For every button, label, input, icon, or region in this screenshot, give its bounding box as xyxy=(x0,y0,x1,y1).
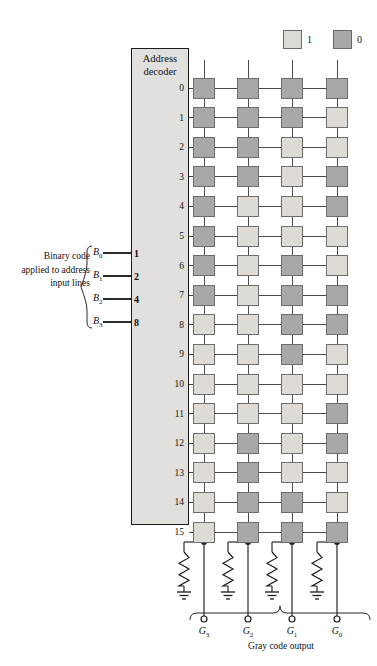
memory-cell-r6-G3 xyxy=(193,255,215,276)
output-label-G1: G1 xyxy=(277,625,307,639)
row-number-10: 10 xyxy=(162,379,184,389)
row-number-13: 13 xyxy=(162,468,184,478)
memory-cell-r11-G1 xyxy=(281,403,303,424)
out-sub-G0: 0 xyxy=(339,631,343,639)
memory-cell-r8-G3 xyxy=(193,314,215,335)
memory-cell-r9-G2 xyxy=(237,344,259,365)
memory-cell-r15-G3 xyxy=(193,522,215,543)
address-input-label-B0: B0 xyxy=(93,246,103,260)
addr-sub-B1: 1 xyxy=(99,275,103,283)
memory-cell-r8-G2 xyxy=(237,314,259,335)
memory-cell-r2-G3 xyxy=(193,137,215,158)
memory-cell-r14-G0 xyxy=(326,492,348,513)
row-number-0: 0 xyxy=(162,83,184,93)
memory-cell-r11-G2 xyxy=(237,403,259,424)
memory-cell-r4-G1 xyxy=(281,196,303,217)
gray-output-caption: Gray code output xyxy=(185,641,377,651)
pulldown-resistor-G2 xyxy=(223,552,233,586)
memory-cell-r4-G2 xyxy=(237,196,259,217)
memory-cell-r9-G0 xyxy=(326,344,348,365)
memory-cell-r8-G1 xyxy=(281,314,303,335)
pulldown-resistor-G0 xyxy=(312,552,322,586)
memory-cell-r6-G2 xyxy=(237,255,259,276)
address-input-label-B1: B1 xyxy=(93,269,103,283)
memory-cell-r14-G1 xyxy=(281,492,303,513)
address-weight-B0: 1 xyxy=(134,248,139,259)
row-number-6: 6 xyxy=(162,261,184,271)
memory-cell-r1-G1 xyxy=(281,107,303,128)
addr-sub-B0: 0 xyxy=(99,252,103,260)
address-input-label-B3: B3 xyxy=(93,315,103,329)
memory-cell-r9-G3 xyxy=(193,344,215,365)
ground-symbol-G2 xyxy=(221,592,235,599)
memory-cell-r5-G1 xyxy=(281,226,303,247)
row-number-4: 4 xyxy=(162,201,184,211)
memory-cell-r7-G3 xyxy=(193,285,215,306)
memory-cell-r10-G2 xyxy=(237,374,259,395)
memory-cell-r6-G1 xyxy=(281,255,303,276)
memory-cell-r11-G3 xyxy=(193,403,215,424)
out-base-G0: G xyxy=(332,625,339,636)
out-sub-G2: 2 xyxy=(250,631,254,639)
addr-sub-B3: 3 xyxy=(99,321,103,329)
row-number-3: 3 xyxy=(162,172,184,182)
memory-cell-r3-G3 xyxy=(193,166,215,187)
output-terminal-G0 xyxy=(334,616,340,622)
memory-cell-r2-G0 xyxy=(326,137,348,158)
figure-canvas: 1 0 Address decoder Binary code applied … xyxy=(0,0,377,666)
out-base-G2: G xyxy=(243,625,250,636)
memory-cell-r13-G3 xyxy=(193,462,215,483)
row-number-5: 5 xyxy=(162,231,184,241)
address-weight-B1: 2 xyxy=(134,271,139,282)
output-label-G3: G3 xyxy=(189,625,219,639)
memory-cell-r15-G0 xyxy=(326,522,348,543)
pulldown-resistor-G3 xyxy=(179,552,189,586)
memory-cell-r12-G1 xyxy=(281,433,303,454)
output-label-G2: G2 xyxy=(233,625,263,639)
memory-cell-r1-G3 xyxy=(193,107,215,128)
out-base-G1: G xyxy=(287,625,294,636)
ground-symbol-G0 xyxy=(310,592,324,599)
wiring-layer xyxy=(0,0,377,666)
row-number-1: 1 xyxy=(162,113,184,123)
memory-cell-r12-G2 xyxy=(237,433,259,454)
memory-cell-r15-G2 xyxy=(237,522,259,543)
pulldown-resistor-G1 xyxy=(267,552,277,586)
output-terminal-G1 xyxy=(289,616,295,622)
memory-cell-r5-G2 xyxy=(237,226,259,247)
memory-cell-r4-G3 xyxy=(193,196,215,217)
memory-cell-r13-G2 xyxy=(237,462,259,483)
memory-cell-r7-G2 xyxy=(237,285,259,306)
row-number-12: 12 xyxy=(162,438,184,448)
memory-cell-r7-G1 xyxy=(281,285,303,306)
memory-cell-r2-G2 xyxy=(237,137,259,158)
address-weight-B3: 8 xyxy=(134,317,139,328)
memory-cell-r1-G0 xyxy=(326,107,348,128)
memory-cell-r1-G2 xyxy=(237,107,259,128)
memory-cell-r4-G0 xyxy=(326,196,348,217)
output-terminal-G3 xyxy=(201,616,207,622)
memory-cell-r6-G0 xyxy=(326,255,348,276)
memory-cell-r14-G3 xyxy=(193,492,215,513)
memory-cell-r10-G0 xyxy=(326,374,348,395)
row-number-15: 15 xyxy=(162,527,184,537)
out-base-G3: G xyxy=(199,625,206,636)
ground-symbol-G3 xyxy=(177,592,191,599)
memory-cell-r10-G3 xyxy=(193,374,215,395)
memory-cell-r15-G1 xyxy=(281,522,303,543)
memory-cell-r3-G2 xyxy=(237,166,259,187)
memory-cell-r0-G0 xyxy=(326,78,348,99)
memory-cell-r2-G1 xyxy=(281,137,303,158)
address-input-label-B2: B2 xyxy=(93,292,103,306)
row-number-7: 7 xyxy=(162,290,184,300)
memory-cell-r12-G0 xyxy=(326,433,348,454)
memory-cell-r0-G2 xyxy=(237,78,259,99)
memory-cell-r14-G2 xyxy=(237,492,259,513)
row-number-2: 2 xyxy=(162,142,184,152)
row-number-11: 11 xyxy=(162,409,184,419)
memory-cell-r3-G1 xyxy=(281,166,303,187)
out-sub-G3: 3 xyxy=(206,631,210,639)
memory-cell-r5-G0 xyxy=(326,226,348,247)
memory-cell-r11-G0 xyxy=(326,403,348,424)
row-number-9: 9 xyxy=(162,349,184,359)
